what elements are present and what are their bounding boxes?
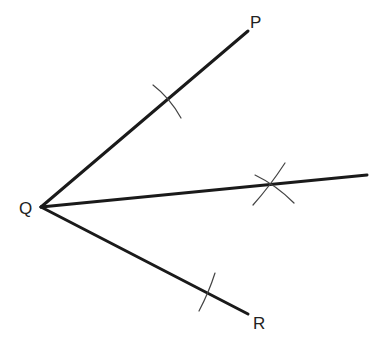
angle-bisector-diagram: P Q R [0, 0, 369, 344]
label-q: Q [19, 199, 32, 218]
ray-qp [41, 31, 248, 207]
bisector-ray [41, 175, 367, 207]
ray-qr [41, 207, 248, 314]
label-r: R [253, 314, 265, 333]
label-p: P [250, 13, 261, 32]
